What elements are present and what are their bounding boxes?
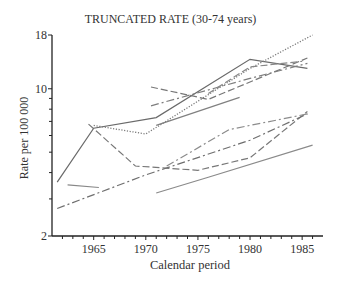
y-tick-label: 10: [35, 82, 47, 96]
x-tick-label: 1965: [82, 242, 106, 256]
series-line-long-dash-dot-upper: [151, 63, 307, 105]
y-tick-label: 2: [41, 229, 47, 243]
series-line-solid-lower-right: [156, 145, 312, 193]
series-line-solid-upper-mid: [156, 97, 239, 125]
x-tick-label: 1970: [134, 242, 158, 256]
series-line-solid-dark: [57, 59, 307, 182]
series-line-dash-dot-mid: [167, 114, 308, 166]
axes: 2101819651970197519801985: [35, 28, 323, 256]
series-lines: [57, 35, 312, 209]
y-tick-label: 18: [35, 28, 47, 42]
x-tick-label: 1985: [290, 242, 314, 256]
x-tick-label: 1975: [186, 242, 210, 256]
line-chart: 2101819651970197519801985: [0, 0, 341, 286]
x-tick-label: 1980: [238, 242, 262, 256]
series-line-solid-short-1962: [68, 185, 99, 188]
